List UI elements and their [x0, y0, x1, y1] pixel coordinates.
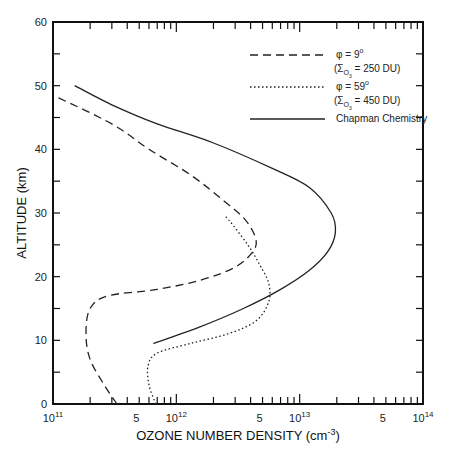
x-tick-label: 1011 — [43, 410, 64, 424]
series-dashed-phi9 — [53, 95, 256, 404]
series-dotted-phi59 — [147, 216, 270, 404]
y-tick-label: 0 — [41, 398, 47, 410]
x-tick-label: 1012 — [166, 410, 188, 424]
legend-label-chapman: Chapman Chemistry — [336, 113, 427, 124]
y-tick-label: 10 — [35, 334, 47, 346]
ozone-profile-chart: 0102030405060 1011510125101351014 φ = 9o… — [0, 0, 452, 456]
y-tick-label: 30 — [35, 207, 47, 219]
x-tick-label: 1014 — [412, 410, 434, 424]
series-solid-chapman — [75, 86, 336, 344]
legend-label-phi9: φ = 9o — [336, 47, 363, 60]
x-tick-label: 1013 — [289, 410, 311, 424]
legend-sublabel-phi9: (ΣO3 = 250 DU) — [334, 63, 400, 79]
legend-sublabel-phi59: (ΣO3 = 450 DU) — [334, 95, 400, 111]
y-tick-label: 60 — [35, 16, 47, 28]
x-tick-labels: 1011510125101351014 — [43, 410, 434, 424]
legend-label-phi59: φ = 59o — [336, 79, 369, 92]
x-tick-label: 5 — [256, 412, 262, 424]
y-tick-label: 40 — [35, 143, 47, 155]
y-tick-label: 20 — [35, 271, 47, 283]
y-tick-labels: 0102030405060 — [35, 16, 47, 410]
y-tick-label: 50 — [35, 80, 47, 92]
x-axis-title: OZONE NUMBER DENSITY (cm-3) — [136, 427, 340, 443]
x-tick-label: 5 — [380, 412, 386, 424]
legend: φ = 9o (ΣO3 = 250 DU) φ = 59o (ΣO3 = 450… — [250, 47, 427, 124]
y-axis-title: ALTITUDE (km) — [14, 167, 29, 258]
x-tick-label: 5 — [133, 412, 139, 424]
